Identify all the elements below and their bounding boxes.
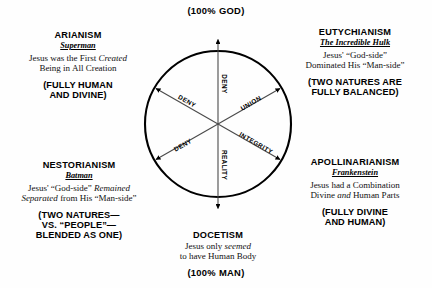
nestorianism-nickname: Batman (0, 171, 158, 180)
nestorianism-tagline-line1: (TWO NATURES— (38, 210, 119, 220)
eutychianism-desc-line2: Dominated His “Man-side” (306, 60, 405, 70)
apollinarianism-tagline-line2: AND HUMAN) (325, 217, 386, 227)
eutychianism-tagline-line2: FULLY BALANCED) (311, 87, 398, 97)
docetism-desc-line1: Jesus only seemed (185, 241, 251, 251)
arianism-heading: ARIANISM (4, 30, 152, 40)
eutychianism-tagline: (TWO NATURES ARE FULLY BALANCED) (280, 77, 430, 98)
spoke-label-reality-down: REALITY (221, 150, 228, 180)
arianism-nickname: Superman (4, 41, 152, 50)
heresy-block-docetism: DOCETISM Jesus only seemed to have Human… (142, 230, 294, 261)
eutychianism-tagline-line1: (TWO NATURES ARE (308, 77, 402, 87)
arianism-tagline: (FULLY HUMAN AND DIVINE) (4, 80, 152, 101)
spoke-label-union-upper-right: UNION (239, 94, 262, 111)
heresy-block-eutychianism: EUTYCHIANISM The Incredible Hulk Jesus' … (280, 27, 430, 97)
nestorianism-heading: NESTORIANISM (0, 160, 158, 170)
arianism-tagline-line2: AND DIVINE) (49, 90, 106, 100)
apollinarianism-heading: APOLLINARIANISM (278, 157, 432, 167)
eutychianism-description: Jesus' “God-side” Dominated His “Man-sid… (280, 50, 430, 70)
eutychianism-desc-line1: Jesus' “God-side” (323, 50, 387, 60)
eutychianism-heading: EUTYCHIANISM (280, 27, 430, 37)
nestorianism-desc-line2: Separated from His “Man-side” (21, 193, 136, 203)
nestorianism-desc-line1: Jesus' “God-side” Remained (28, 183, 130, 193)
eutychianism-nickname: The Incredible Hulk (280, 38, 430, 47)
arianism-desc-line1: Jesus was the First Created (29, 53, 127, 63)
docetism-description: Jesus only seemed to have Human Body (142, 241, 294, 261)
apollinarianism-desc-line1: Jesus had a Combination (310, 180, 400, 190)
arianism-desc-line2: Being in All Creation (39, 63, 116, 73)
pole-caption-god: (100% GOD) (0, 6, 432, 17)
pole-man-label: (100% MAN) (0, 268, 432, 279)
apollinarianism-tagline-line1: (FULLY DIVINE (322, 207, 388, 217)
apollinarianism-desc-line2: Divine and Human Parts (310, 190, 399, 200)
docetism-heading: DOCETISM (142, 230, 294, 240)
nestorianism-tagline-line3: BLENDED AS ONE) (36, 230, 122, 240)
apollinarianism-tagline: (FULLY DIVINE AND HUMAN) (278, 207, 432, 228)
docetism-desc-line2: to have Human Body (180, 251, 257, 261)
nestorianism-tagline: (TWO NATURES— VS. “PEOPLE”— BLENDED AS O… (0, 210, 158, 241)
pole-god-label: (100% GOD) (0, 6, 432, 17)
heresy-block-arianism: ARIANISM Superman Jesus was the First Cr… (4, 30, 152, 100)
spoke-label-deny-lower-left: DENY (173, 137, 194, 153)
apollinarianism-description: Jesus had a Combination Divine and Human… (278, 180, 432, 200)
spoke-label-deny-up: DENY (221, 74, 228, 94)
nestorianism-description: Jesus' “God-side” Remained Separated fro… (0, 183, 158, 203)
spoke-label-integrity-lower-right: INTEGRITY (238, 130, 274, 155)
nestorianism-tagline-line2: VS. “PEOPLE”— (42, 220, 116, 230)
arianism-tagline-line1: (FULLY HUMAN (43, 80, 113, 90)
pole-caption-man: (100% MAN) (0, 268, 432, 279)
spoke-deny-upper-left (156, 89, 218, 125)
apollinarianism-nickname: Frankenstein (278, 168, 432, 177)
heresy-block-apollinarianism: APOLLINARIANISM Frankenstein Jesus had a… (278, 157, 432, 227)
heresy-block-nestorianism: NESTORIANISM Batman Jesus' “God-side” Re… (0, 160, 158, 241)
arianism-description: Jesus was the First Created Being in All… (4, 53, 152, 73)
